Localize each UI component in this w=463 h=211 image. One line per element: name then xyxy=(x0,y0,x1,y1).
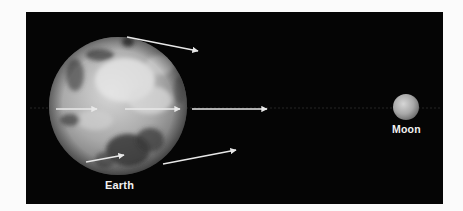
earth-moon-diagram xyxy=(0,0,463,211)
earth-label: Earth xyxy=(105,179,134,191)
earth-globe xyxy=(49,37,187,175)
moon-label: Moon xyxy=(392,123,421,135)
moon-globe xyxy=(393,94,419,120)
arrow-bottom-outer xyxy=(163,150,236,164)
